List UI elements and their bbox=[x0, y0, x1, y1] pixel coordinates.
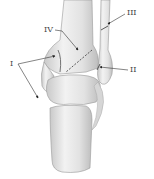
leader-I-b bbox=[18, 64, 38, 98]
calcaneus bbox=[50, 105, 92, 172]
label-I: I bbox=[10, 60, 13, 68]
label-III: III bbox=[127, 9, 136, 17]
label-II: II bbox=[130, 66, 136, 74]
talus bbox=[46, 75, 100, 105]
label-IV: IV bbox=[44, 26, 53, 34]
leader-III bbox=[108, 14, 125, 24]
fibula bbox=[98, 0, 113, 84]
ankle-diagram bbox=[0, 0, 154, 179]
tibia bbox=[44, 0, 98, 74]
